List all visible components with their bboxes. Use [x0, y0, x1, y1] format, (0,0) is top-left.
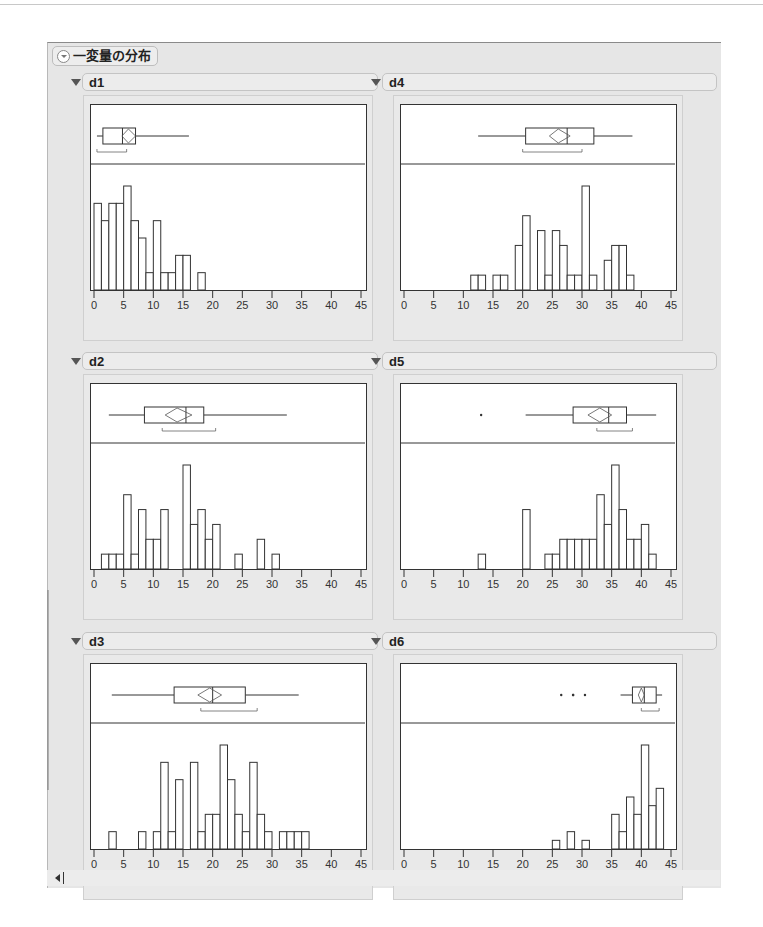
histogram-chart: 051015202530354045 — [400, 663, 697, 890]
axis-tick-label: 40 — [325, 858, 337, 870]
outlier-point — [572, 694, 574, 696]
histogram-bar — [190, 762, 197, 849]
axis-tick-label: 10 — [457, 578, 469, 590]
axis-tick-label: 15 — [487, 299, 499, 311]
histogram-bar — [161, 762, 168, 849]
axis-tick-label: 0 — [401, 299, 407, 311]
histogram-bar — [478, 275, 485, 290]
histogram-bar — [538, 231, 545, 290]
axis-tick-label: 40 — [635, 299, 647, 311]
axis-tick-label: 35 — [296, 578, 308, 590]
axis-tick-label: 10 — [147, 858, 159, 870]
histogram-bar — [116, 203, 123, 290]
panel-header-d5[interactable]: d5 — [382, 352, 717, 370]
panel-header-d2[interactable]: d2 — [82, 352, 378, 370]
histogram-bar — [612, 245, 619, 290]
axis-tick-label: 40 — [635, 578, 647, 590]
report-title-outline[interactable]: 一変量の分布 — [52, 46, 158, 66]
histogram-bar — [235, 814, 242, 849]
histogram-bar — [478, 554, 485, 569]
histogram-bar — [471, 275, 478, 290]
axis-tick-label: 35 — [606, 578, 618, 590]
histogram-bar — [176, 255, 183, 290]
histogram-bar — [567, 275, 574, 290]
collapse-disclosure-icon[interactable] — [57, 50, 70, 63]
histogram-bar — [649, 806, 656, 849]
histogram-bar — [597, 495, 604, 569]
histogram-bar — [257, 539, 264, 569]
histogram-bar — [612, 465, 619, 569]
panel-header-d3[interactable]: d3 — [82, 632, 378, 650]
axis-tick-label: 10 — [457, 299, 469, 311]
histogram-bar — [265, 832, 272, 849]
histogram-bar — [493, 275, 500, 290]
panel-title: d3 — [89, 634, 104, 649]
outlier-point — [560, 694, 562, 696]
histogram-bar — [649, 554, 656, 569]
histogram-bar — [582, 186, 589, 290]
panel-header-d6[interactable]: d6 — [382, 632, 717, 650]
axis-tick-label: 5 — [121, 299, 127, 311]
report-title: 一変量の分布 — [73, 48, 151, 63]
panel-title: d5 — [389, 354, 404, 369]
histogram-bar — [131, 554, 138, 569]
axis-tick-label: 20 — [517, 299, 529, 311]
histogram-bar — [153, 832, 160, 849]
axis-tick-label: 15 — [487, 858, 499, 870]
histogram-bar — [257, 814, 264, 849]
shortest-half-bracket — [97, 149, 127, 152]
histogram-bar — [131, 221, 138, 290]
histogram-bar — [523, 216, 530, 290]
histogram-bar — [250, 762, 257, 849]
panel-title: d4 — [389, 75, 404, 90]
horizontal-scrollbar[interactable] — [47, 870, 720, 886]
panel-title: d1 — [89, 75, 104, 90]
histogram-bar — [101, 554, 108, 569]
histogram-chart: 051015202530354045 — [90, 663, 387, 890]
histogram-chart: 051015202530354045 — [400, 104, 697, 331]
histogram-bar — [589, 275, 596, 290]
panel-header-d4[interactable]: d4 — [382, 73, 717, 91]
left-edge-shadow — [47, 590, 49, 790]
axis-tick-label: 30 — [576, 299, 588, 311]
disclosure-triangle-icon[interactable] — [371, 638, 381, 645]
histogram-bar — [619, 510, 626, 569]
histogram-chart: 051015202530354045 — [90, 383, 387, 610]
scroll-thumb[interactable] — [63, 872, 64, 884]
shortest-half-bracket — [162, 428, 215, 431]
axis-tick-label: 30 — [266, 299, 278, 311]
histogram-bar — [575, 275, 582, 290]
histogram-bar — [641, 745, 648, 849]
axis-tick-label: 0 — [91, 578, 97, 590]
axis-tick-label: 20 — [207, 299, 219, 311]
histogram-bar — [552, 231, 559, 290]
disclosure-triangle-icon[interactable] — [371, 79, 381, 86]
histogram-bar — [109, 554, 116, 569]
scroll-left-arrow-icon[interactable] — [55, 874, 60, 882]
histogram-bar — [205, 539, 212, 569]
histogram-bar — [279, 832, 286, 849]
axis-tick-label: 10 — [147, 578, 159, 590]
histogram-bar — [287, 832, 294, 849]
histogram-bar — [634, 814, 641, 849]
histogram-bar — [183, 465, 190, 569]
axis-tick-label: 5 — [121, 578, 127, 590]
axis-tick-label: 15 — [177, 858, 189, 870]
axis-tick-label: 20 — [517, 578, 529, 590]
histogram-bar — [116, 554, 123, 569]
panel-header-d1[interactable]: d1 — [82, 73, 378, 91]
axis-tick-label: 35 — [606, 858, 618, 870]
histogram-bar — [619, 832, 626, 849]
disclosure-triangle-icon[interactable] — [371, 358, 381, 365]
axis-tick-label: 15 — [177, 299, 189, 311]
disclosure-triangle-icon[interactable] — [71, 638, 81, 645]
histogram-bar — [523, 510, 530, 569]
disclosure-triangle-icon[interactable] — [71, 358, 81, 365]
disclosure-triangle-icon[interactable] — [71, 79, 81, 86]
panel-title: d6 — [389, 634, 404, 649]
histogram-bar — [168, 273, 175, 290]
box-iqr — [573, 407, 626, 423]
histogram-bar — [198, 832, 205, 849]
axis-tick-label: 30 — [576, 578, 588, 590]
histogram-bar — [168, 832, 175, 849]
